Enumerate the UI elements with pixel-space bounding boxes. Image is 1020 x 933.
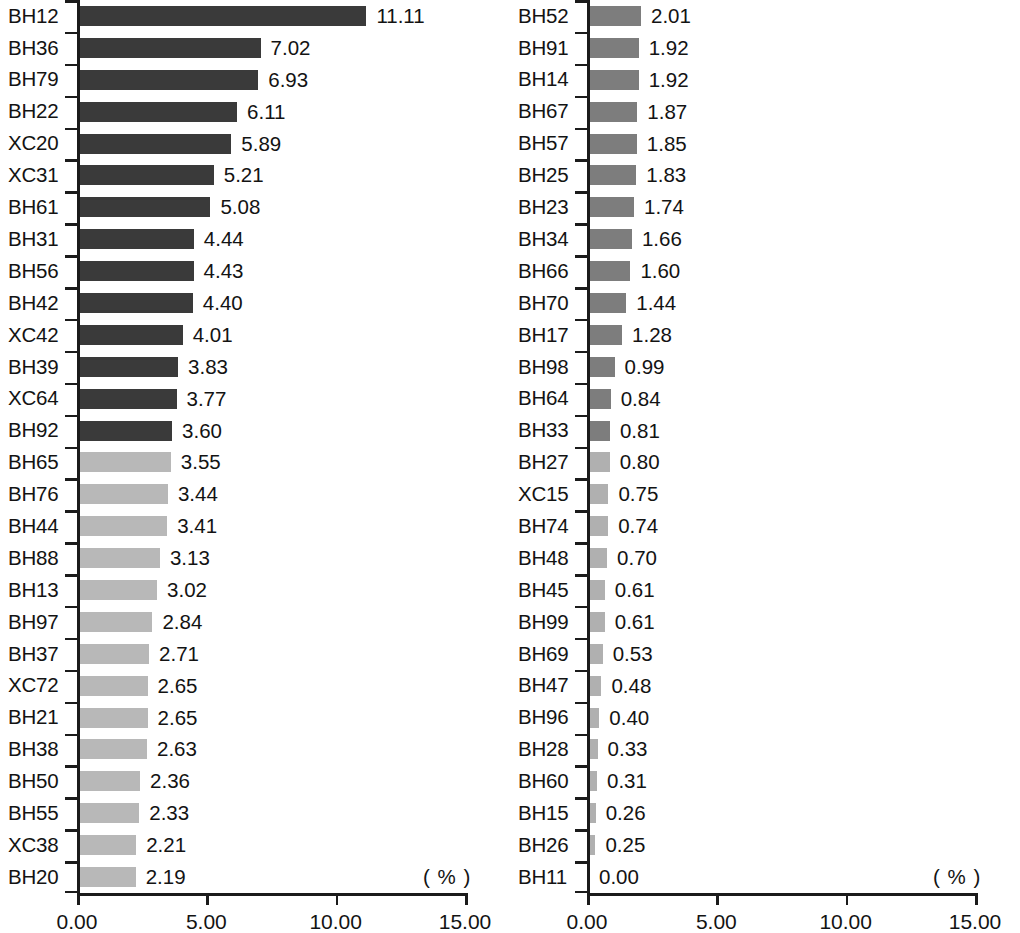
bar-value-label: 6.93 <box>268 69 308 90</box>
bar[interactable] <box>589 708 599 728</box>
bar-value-label: 1.83 <box>646 165 686 186</box>
bar-value-label: 0.80 <box>620 452 660 473</box>
bar[interactable] <box>79 452 171 472</box>
bar[interactable] <box>589 6 641 26</box>
bar[interactable] <box>79 357 178 377</box>
bar[interactable] <box>589 516 608 536</box>
bar[interactable] <box>589 102 637 122</box>
bar-track: 0.74 <box>582 510 1020 542</box>
bar-value-label: 3.83 <box>188 357 228 378</box>
category-label: BH96 <box>510 707 582 728</box>
bar-track: 5.89 <box>72 128 510 160</box>
bar[interactable] <box>589 293 626 313</box>
bar-value-label: 0.61 <box>615 612 655 633</box>
bar[interactable] <box>79 102 237 122</box>
value-axis-tick <box>975 893 978 905</box>
bar[interactable] <box>79 708 148 728</box>
bar-track: 3.41 <box>72 510 510 542</box>
bar-value-label: 1.87 <box>647 101 687 122</box>
bar[interactable] <box>79 389 177 409</box>
category-tick <box>575 542 588 545</box>
bar-value-label: 3.02 <box>167 580 207 601</box>
bar-track: 4.01 <box>72 319 510 351</box>
category-tick <box>575 415 588 418</box>
bar[interactable] <box>589 803 596 823</box>
bar[interactable] <box>79 261 194 281</box>
bar-track: 0.33 <box>582 734 1020 766</box>
bar[interactable] <box>589 676 601 696</box>
bar[interactable] <box>79 739 147 759</box>
category-tick <box>575 478 588 481</box>
bar-track: 0.61 <box>582 574 1020 606</box>
bar-value-label: 2.36 <box>150 771 190 792</box>
bar[interactable] <box>589 229 632 249</box>
bar[interactable] <box>589 771 597 791</box>
bar-track: 0.31 <box>582 765 1020 797</box>
category-label: BH50 <box>0 771 72 792</box>
bar[interactable] <box>79 229 194 249</box>
bar[interactable] <box>79 293 193 313</box>
value-axis-tick <box>465 893 468 905</box>
bar-track: 0.26 <box>582 797 1020 829</box>
bar[interactable] <box>589 452 610 472</box>
category-label: BH91 <box>510 38 582 59</box>
category-label: BH66 <box>510 261 582 282</box>
category-label: BH36 <box>0 38 72 59</box>
bar[interactable] <box>79 421 172 441</box>
bar[interactable] <box>79 771 140 791</box>
bar[interactable] <box>589 484 608 504</box>
bar[interactable] <box>79 6 366 26</box>
category-tick <box>65 765 78 768</box>
bar-value-label: 2.21 <box>146 835 186 856</box>
bar[interactable] <box>79 165 214 185</box>
category-label: BH42 <box>0 293 72 314</box>
bar-value-label: 0.48 <box>611 675 651 696</box>
bar-track: 3.13 <box>72 542 510 574</box>
category-label: BH97 <box>0 612 72 633</box>
bar[interactable] <box>589 38 639 58</box>
bar[interactable] <box>589 389 611 409</box>
bar[interactable] <box>589 325 622 345</box>
bar[interactable] <box>589 739 598 759</box>
bar[interactable] <box>589 580 605 600</box>
bar[interactable] <box>589 357 615 377</box>
bar-track: 3.44 <box>72 478 510 510</box>
bar[interactable] <box>79 644 149 664</box>
category-tick <box>65 128 78 131</box>
bar-track: 2.63 <box>72 734 510 766</box>
bar[interactable] <box>79 835 136 855</box>
bar[interactable] <box>79 867 136 887</box>
category-label: BH99 <box>510 612 582 633</box>
bar[interactable] <box>79 676 148 696</box>
bar[interactable] <box>79 325 183 345</box>
bar-value-label: 0.81 <box>620 420 660 441</box>
bar[interactable] <box>589 70 639 90</box>
bar[interactable] <box>79 484 168 504</box>
bar[interactable] <box>589 165 636 185</box>
bar[interactable] <box>79 548 160 568</box>
bar[interactable] <box>589 197 634 217</box>
bar[interactable] <box>589 261 630 281</box>
category-tick <box>575 861 588 864</box>
bar-track: 1.83 <box>582 159 1020 191</box>
value-axis-tick-label: 15.00 <box>949 911 1002 932</box>
bar-value-label: 1.85 <box>647 133 687 154</box>
category-label: BH20 <box>0 867 72 888</box>
bar[interactable] <box>79 38 261 58</box>
bar[interactable] <box>79 580 157 600</box>
category-tick <box>575 319 588 322</box>
bar[interactable] <box>589 421 610 441</box>
bar[interactable] <box>589 548 607 568</box>
category-label: BH88 <box>0 548 72 569</box>
bar[interactable] <box>589 134 637 154</box>
bar[interactable] <box>79 197 210 217</box>
bar[interactable] <box>79 70 258 90</box>
bar[interactable] <box>589 644 603 664</box>
bar[interactable] <box>79 134 231 154</box>
bar[interactable] <box>79 516 167 536</box>
bar[interactable] <box>79 803 139 823</box>
bar-value-label: 0.33 <box>608 739 648 760</box>
category-label: XC72 <box>0 675 72 696</box>
bar[interactable] <box>79 612 152 632</box>
bar[interactable] <box>589 612 605 632</box>
